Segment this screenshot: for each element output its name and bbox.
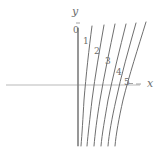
- y-axis-label: y: [72, 6, 78, 17]
- plot-canvas: [0, 0, 166, 147]
- axis-group: [6, 28, 140, 146]
- curve-label-4: 4: [116, 68, 122, 77]
- x-axis-label: x: [147, 78, 153, 89]
- curve-label-2: 2: [94, 47, 100, 56]
- function-family-plot: y x 0 1 2 3 4 5: [0, 0, 166, 147]
- curve-label-5: 5: [124, 78, 130, 87]
- curve-label-3: 3: [105, 57, 111, 66]
- curve-label-0: 0: [73, 26, 79, 35]
- curve-label-1: 1: [83, 37, 89, 46]
